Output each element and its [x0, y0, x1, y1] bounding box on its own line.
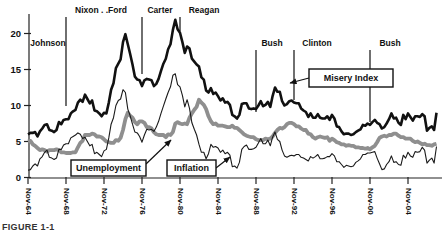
misery-index-arrow	[290, 78, 309, 83]
president-label-reagan: Reagan	[189, 5, 220, 15]
president-label-johnson: Johnson	[30, 38, 65, 48]
x-tick-label: Nov-96	[328, 188, 337, 215]
x-tick-label: Nov-72	[100, 188, 109, 215]
x-tick-label: Nov-68	[62, 188, 71, 215]
president-label-carter: Carter	[147, 5, 173, 15]
x-tick-label: Nov-64	[24, 188, 33, 215]
misery-index-label: Misery Index	[324, 73, 379, 83]
misery-index-chart: 05101520Nov-64Nov-68Nov-72Nov-76Nov-80No…	[0, 0, 446, 232]
y-tick-label: 10	[10, 100, 21, 111]
y-tick-label: 20	[10, 28, 21, 39]
x-tick-label: Nov-00	[366, 188, 375, 215]
x-tick-label: Nov-84	[214, 188, 223, 215]
x-tick-label: Nov-04	[404, 188, 413, 215]
x-tick-label: Nov-76	[138, 188, 147, 215]
president-label-bush: Bush	[379, 38, 400, 48]
y-tick-label: 5	[16, 136, 22, 147]
y-tick-label: 15	[10, 64, 21, 75]
x-tick-label: Nov-80	[176, 188, 185, 215]
inflation-arrow	[216, 157, 230, 168]
y-tick-label: 0	[16, 172, 21, 183]
president-label-clinton: Clinton	[302, 38, 331, 48]
unemployment-label: Unemployment	[76, 163, 141, 173]
president-label-nixon-ford: Nixon . .Ford	[75, 5, 127, 15]
x-tick-label: Nov-88	[252, 188, 261, 215]
figure-caption: FIGURE 1-1	[2, 222, 55, 232]
inflation-label: Inflation	[174, 163, 209, 173]
x-tick-label: Nov-92	[290, 188, 299, 215]
misery-index-figure: 05101520Nov-64Nov-68Nov-72Nov-76Nov-80No…	[0, 0, 446, 232]
president-label-bush: Bush	[261, 38, 282, 48]
